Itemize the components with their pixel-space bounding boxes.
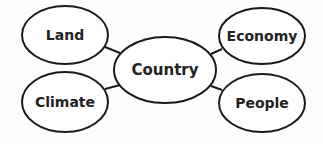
connector-economy-country — [211, 49, 222, 54]
node-land: Land — [22, 6, 108, 64]
node-label: People — [235, 95, 289, 111]
node-label: Climate — [35, 94, 95, 110]
node-people: People — [219, 74, 305, 132]
node-country: Country — [114, 37, 216, 103]
connector-people-country — [211, 86, 222, 90]
node-label: Land — [46, 27, 84, 43]
connector-land-country — [105, 47, 120, 53]
node-label: Country — [131, 61, 198, 79]
concept-web-diagram: CountryLandClimateEconomyPeople — [0, 0, 323, 144]
connector-climate-country — [105, 85, 120, 89]
node-economy: Economy — [219, 8, 305, 64]
concept-nodes: CountryLandClimateEconomyPeople — [22, 6, 305, 132]
node-label: Economy — [227, 28, 298, 44]
node-climate: Climate — [22, 72, 108, 132]
